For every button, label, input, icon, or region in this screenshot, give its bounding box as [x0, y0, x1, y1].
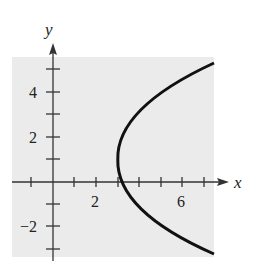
y-tick-label-2: 2 [29, 129, 37, 146]
x-tick-label-6: 6 [177, 193, 185, 210]
y-tick-label-4: 4 [29, 84, 37, 101]
y-axis-label: y [43, 20, 53, 39]
plot-background [12, 57, 214, 257]
x-axis-label: x [233, 173, 242, 192]
y-tick-label-neg2: −2 [20, 218, 37, 235]
x-tick-label-2: 2 [91, 193, 99, 210]
parabola-chart: y x 2 6 4 2 −2 [0, 0, 253, 264]
